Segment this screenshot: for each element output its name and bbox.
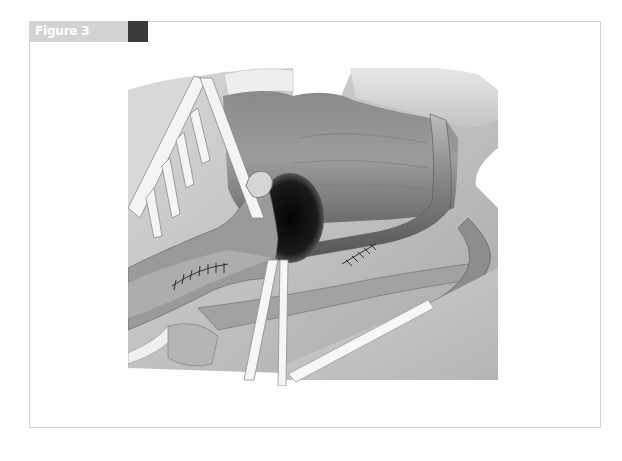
surgical-illustration — [128, 68, 498, 386]
figure-header: Figure 3 — [29, 21, 128, 42]
figure-label: Figure 3 — [35, 24, 89, 39]
figure-header-accent — [128, 21, 148, 42]
